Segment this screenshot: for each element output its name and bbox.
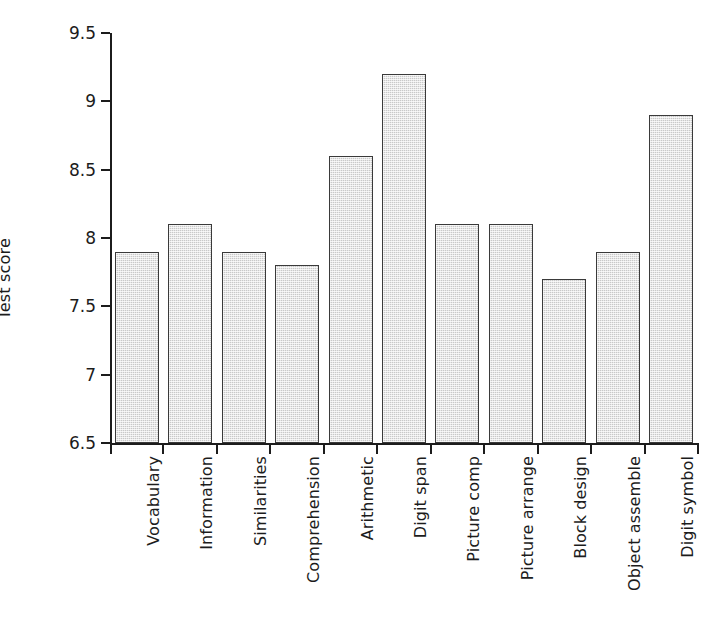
x-tick-label: Comprehension [304, 456, 323, 583]
x-tick-label: Similarities [251, 456, 270, 546]
bar-chart: Test score 6.577.588.599.5 VocabularyInf… [0, 0, 716, 620]
x-tick-label: Vocabulary [144, 456, 163, 546]
x-tick-label: Digit symbol [678, 456, 697, 558]
x-tick-label: Picture arrange [518, 456, 537, 580]
x-tick-label: Picture comp [464, 456, 483, 562]
x-tick-label: Arithmetic [358, 456, 377, 540]
x-tick-label: Digit span [411, 456, 430, 538]
x-tick-label: Object assemble [625, 456, 644, 591]
x-tick-label: Information [197, 456, 216, 550]
x-tick-label: Block design [571, 456, 590, 559]
x-axis-labels: VocabularyInformationSimilaritiesCompreh… [0, 0, 716, 620]
